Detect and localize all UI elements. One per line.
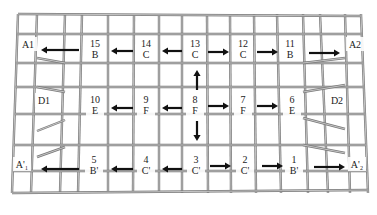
cell-label-D2: D2 <box>331 95 343 106</box>
arrow-icon <box>208 48 229 55</box>
cell-sublabel-7: F <box>240 105 246 116</box>
arrow-icon <box>257 102 278 109</box>
cell-sublabel-1: B' <box>290 165 299 176</box>
arrow-icon <box>162 47 182 54</box>
cell-sublabel-4: C' <box>142 165 151 176</box>
cell-sublabel-6: E <box>289 105 295 116</box>
arrow-icon <box>162 104 182 111</box>
cell-label-8: 8 <box>193 94 198 105</box>
arrow-icon <box>111 47 133 54</box>
cell-label-6: 6 <box>290 94 295 105</box>
cell-sublabel-3: C' <box>192 165 201 176</box>
cell-label-A2: A2 <box>349 39 361 50</box>
cell-labels: A115B14C13C12C11BA2D110E9F8F7F6ED2A'₁5B'… <box>13 37 366 177</box>
cell-sublabel-14: C <box>143 49 150 60</box>
cell-label-11: 11 <box>285 38 295 49</box>
grid-diagram: A115B14C13C12C11BA2D110E9F8F7F6ED2A'₁5B'… <box>0 0 377 215</box>
cell-label-3: 3 <box>194 154 199 165</box>
cell-sublabel-12: C <box>240 49 247 60</box>
cell-label-D1: D1 <box>38 95 50 106</box>
cell-sublabel-8: F <box>192 105 198 116</box>
arrow-icon <box>193 121 200 141</box>
cell-sublabel-9: F <box>143 105 149 116</box>
cell-label-4: 4 <box>144 154 149 165</box>
arrow-icon <box>210 162 231 169</box>
cell-sublabel-15: B <box>92 49 99 60</box>
cell-label-9: 9 <box>144 94 149 105</box>
cell-label-2: 2 <box>243 154 248 165</box>
cell-sublabel-5: B' <box>90 165 99 176</box>
cell-label-5: 5 <box>92 154 97 165</box>
cell-label-1: 1 <box>292 154 297 165</box>
cell-label-Ap1: A'₁ <box>16 159 29 170</box>
cell-label-15: 15 <box>90 38 100 49</box>
cell-label-12: 12 <box>238 38 248 49</box>
grid-column-line <box>78 14 82 193</box>
cell-label-Ap2: A'₂ <box>351 159 364 170</box>
cell-label-13: 13 <box>190 38 200 49</box>
cell-sublabel-2: C' <box>241 165 250 176</box>
grid-column-line <box>303 14 308 193</box>
cell-label-10: 10 <box>90 94 100 105</box>
cell-label-A1: A1 <box>22 39 34 50</box>
arrow-icon <box>208 102 229 109</box>
arrow-icon <box>314 163 345 170</box>
cell-sublabel-11: B <box>287 49 294 60</box>
grid-column-line <box>60 14 65 193</box>
cell-sublabel-10: E <box>92 105 98 116</box>
arrow-icon <box>309 49 340 56</box>
cell-label-14: 14 <box>141 38 151 49</box>
arrow-icon <box>257 48 278 55</box>
cell-label-7: 7 <box>241 94 246 105</box>
cell-sublabel-13: C <box>192 49 199 60</box>
arrow-icon <box>111 104 133 111</box>
arrow-icon <box>41 46 79 53</box>
